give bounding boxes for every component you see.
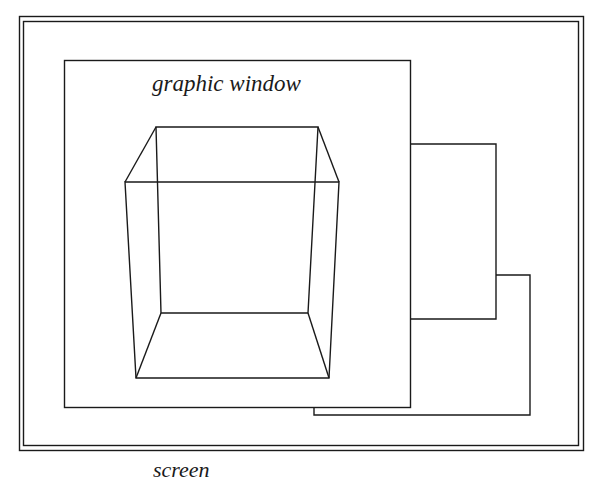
graphic-window-label: graphic window	[152, 71, 302, 96]
graphic-window	[65, 61, 411, 408]
windowing-diagram: graphic window screen	[0, 0, 598, 483]
screen-label: screen	[153, 457, 210, 482]
window-2	[410, 144, 496, 319]
